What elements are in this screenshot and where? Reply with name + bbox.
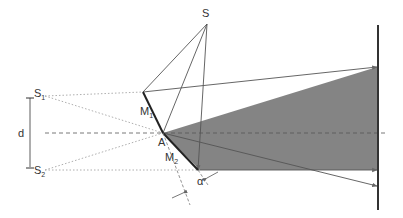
label-separation: d bbox=[18, 128, 24, 139]
label-angle: α bbox=[197, 176, 203, 187]
interference-region bbox=[163, 67, 377, 170]
label-junction: A bbox=[158, 137, 165, 148]
label-source: S bbox=[202, 8, 209, 19]
label-mirror-2: M2 bbox=[165, 152, 178, 165]
label-image-1: S1 bbox=[34, 88, 45, 101]
label-mirror-1: M1 bbox=[140, 106, 153, 119]
label-image-2: S2 bbox=[34, 165, 45, 178]
